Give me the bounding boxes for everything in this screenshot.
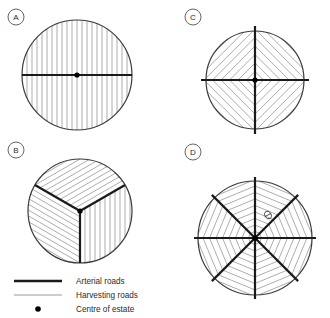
legend-item-label: Harvesting roads xyxy=(76,291,138,300)
panel-label-a: A xyxy=(13,13,19,22)
legend-item-label: Centre of estate xyxy=(76,305,135,314)
legend-centre-dot-icon xyxy=(35,306,41,312)
centre-of-estate-dot xyxy=(252,235,257,240)
estate-road-layout-figure: A B C D Arterial roadsHarvesting roadsCe… xyxy=(0,0,330,318)
centre-of-estate-dot xyxy=(252,77,257,82)
panel-label-d: D xyxy=(190,148,196,157)
panel-label-b: B xyxy=(13,146,18,155)
figure-background xyxy=(0,0,330,318)
centre-of-estate-dot xyxy=(77,208,82,213)
legend-item-label: Arterial roads xyxy=(76,277,125,286)
panel-label-c: C xyxy=(190,13,196,22)
centre-of-estate-dot xyxy=(74,72,79,77)
